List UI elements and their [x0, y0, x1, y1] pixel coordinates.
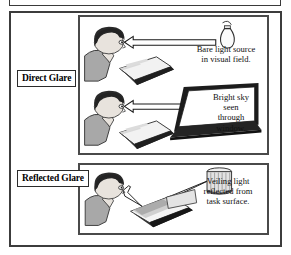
caption-bright-sky: Bright sky seen through window.: [199, 92, 263, 133]
caption-bare-line2: in visual field.: [186, 54, 266, 64]
cropped-top-box: [9, 0, 281, 6]
caption-bare-line1: Bare light source: [186, 44, 266, 54]
label-reflected-glare-text: Reflected Glare: [22, 173, 84, 183]
caption-sky-line1: Bright sky: [199, 92, 263, 102]
caption-bare-light-source: Bare light source in visual field.: [186, 44, 266, 64]
caption-sky-line3: through: [199, 112, 263, 122]
caption-veil-line3: task surface.: [190, 196, 266, 206]
person-figure-2: [85, 91, 126, 145]
caption-veil-line1: Veiling light: [190, 176, 266, 186]
person-figure-3: [85, 173, 125, 226]
caption-sky-line4: window.: [199, 123, 263, 133]
label-direct-glare-text: Direct Glare: [22, 73, 71, 83]
person-figure-1: [85, 27, 126, 81]
desk-task-surface-1: [120, 57, 174, 85]
caption-veiling-light: Veiling light reflected from task surfac…: [190, 176, 266, 207]
caption-veil-line2: reflected from: [190, 186, 266, 196]
caption-sky-line2: seen: [199, 102, 263, 112]
glare-diagram-figure: Direct Glare Reflected Glare Bare light …: [0, 0, 291, 255]
label-direct-glare: Direct Glare: [17, 70, 76, 87]
direct-glare-panel: [78, 15, 269, 155]
desk-task-surface-2: [120, 121, 174, 149]
label-reflected-glare: Reflected Glare: [17, 170, 89, 187]
